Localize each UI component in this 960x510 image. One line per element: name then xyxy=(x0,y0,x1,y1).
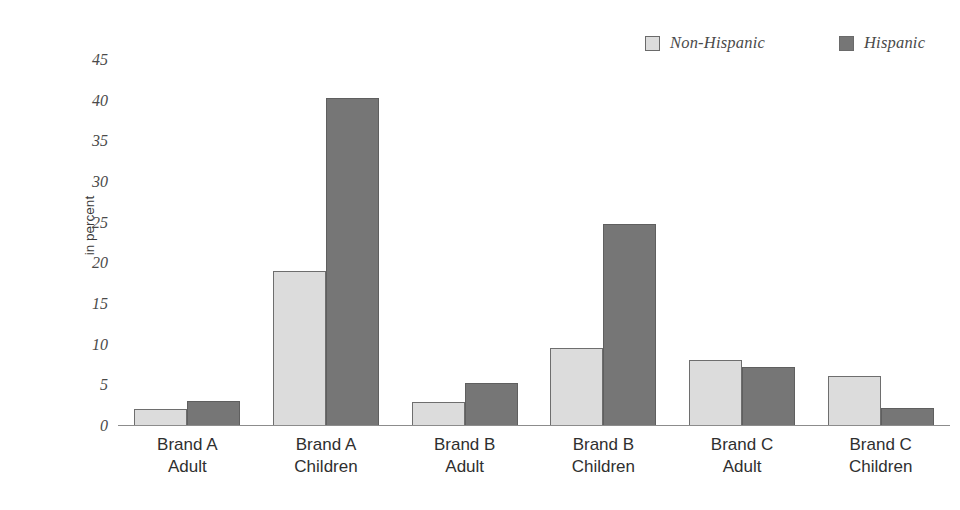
x-axis-line xyxy=(118,425,950,426)
y-tick-label: 45 xyxy=(68,51,108,69)
bar-group xyxy=(811,60,950,426)
category-label: Brand CChildren xyxy=(811,434,950,478)
bar-group xyxy=(118,60,257,426)
y-tick-label: 0 xyxy=(68,417,108,435)
bar-group xyxy=(673,60,812,426)
category-label-line1: Brand A xyxy=(296,435,357,454)
y-tick-label: 10 xyxy=(68,336,108,354)
bar-hispanic xyxy=(881,408,934,426)
bar-group xyxy=(257,60,396,426)
category-label: Brand BAdult xyxy=(395,434,534,478)
chart-legend: Non-Hispanic Hispanic xyxy=(645,30,925,56)
y-tick-label: 35 xyxy=(68,132,108,150)
bar-non-hispanic xyxy=(412,402,465,426)
bar-chart: Non-Hispanic Hispanic in percent 0510152… xyxy=(0,0,960,510)
category-label-line2: Adult xyxy=(673,456,812,478)
bar-hispanic xyxy=(187,401,240,426)
y-tick-label: 30 xyxy=(68,173,108,191)
bar-non-hispanic xyxy=(828,376,881,426)
category-label-line1: Brand B xyxy=(434,435,495,454)
legend-label-hispanic: Hispanic xyxy=(864,33,925,53)
bar-non-hispanic xyxy=(134,409,187,426)
category-label-line1: Brand B xyxy=(573,435,634,454)
x-axis-category-labels: Brand AAdultBrand AChildrenBrand BAdultB… xyxy=(118,434,950,478)
bar-hispanic xyxy=(326,98,379,426)
category-label-line2: Children xyxy=(811,456,950,478)
category-label-line2: Children xyxy=(534,456,673,478)
category-label-line1: Brand C xyxy=(850,435,912,454)
category-label-line2: Adult xyxy=(118,456,257,478)
light-gray-swatch-icon xyxy=(645,36,660,51)
legend-label-non-hispanic: Non-Hispanic xyxy=(670,33,765,53)
y-axis-tick-labels: 051015202530354045 xyxy=(68,60,108,426)
bar-hispanic xyxy=(465,383,518,426)
category-label: Brand AAdult xyxy=(118,434,257,478)
category-label-line2: Adult xyxy=(395,456,534,478)
y-tick-label: 15 xyxy=(68,295,108,313)
bar-group xyxy=(534,60,673,426)
y-tick-label: 40 xyxy=(68,92,108,110)
category-label-line2: Children xyxy=(257,456,396,478)
category-label: Brand AChildren xyxy=(257,434,396,478)
bar-non-hispanic xyxy=(273,271,326,426)
bar-hispanic xyxy=(603,224,656,426)
y-tick-label: 5 xyxy=(68,376,108,394)
bar-groups xyxy=(118,60,950,426)
y-tick-label: 20 xyxy=(68,254,108,272)
legend-item-non-hispanic: Non-Hispanic xyxy=(645,33,765,53)
y-tick-label: 25 xyxy=(68,214,108,232)
plot-area xyxy=(118,60,950,426)
bar-group xyxy=(395,60,534,426)
bar-hispanic xyxy=(742,367,795,426)
category-label-line1: Brand C xyxy=(711,435,773,454)
bar-non-hispanic xyxy=(550,348,603,426)
category-label-line1: Brand A xyxy=(157,435,218,454)
dark-gray-swatch-icon xyxy=(839,36,854,51)
category-label: Brand CAdult xyxy=(673,434,812,478)
bar-non-hispanic xyxy=(689,360,742,426)
category-label: Brand BChildren xyxy=(534,434,673,478)
legend-item-hispanic: Hispanic xyxy=(839,33,925,53)
